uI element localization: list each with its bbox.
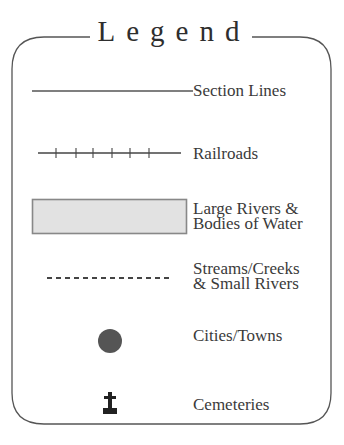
stream-dashed-icon xyxy=(45,273,175,283)
label-railroads: Railroads xyxy=(193,146,258,161)
water-body-icon xyxy=(31,198,189,236)
section-line-icon xyxy=(30,86,195,96)
label-cities: Cities/Towns xyxy=(193,328,282,343)
label-large-rivers: Large Rivers & Bodies of Water xyxy=(193,201,303,231)
city-dot-icon xyxy=(97,328,123,354)
label-streams: Streams/Creeks & Small Rivers xyxy=(193,261,300,291)
cemetery-cross-icon xyxy=(102,391,118,415)
label-cemeteries: Cemeteries xyxy=(193,397,269,412)
railroad-icon xyxy=(36,145,184,161)
legend-title: Legend xyxy=(90,14,252,48)
label-section-lines: Section Lines xyxy=(193,83,286,98)
